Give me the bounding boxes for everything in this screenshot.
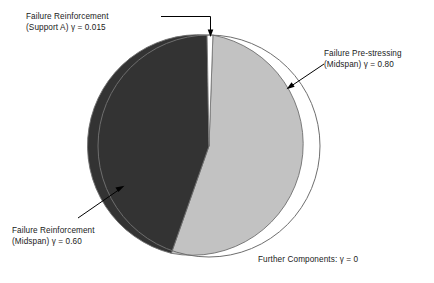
callout-label-prestressing-line1: Failure Pre-stressing bbox=[324, 48, 402, 59]
callout-label-reinforcement-midspan: Failure Reinforcement (Midspan) γ = 0.60 bbox=[12, 225, 95, 247]
callout-label-prestressing: Failure Pre-stressing (Midspan) γ = 0.80 bbox=[324, 48, 402, 70]
callout-label-reinforcement-midspan-line1: Failure Reinforcement bbox=[12, 225, 95, 236]
callout-label-support-a: Failure Reinforcement (Support A) γ = 0.… bbox=[26, 11, 109, 33]
leader-line-prestressing bbox=[287, 64, 325, 89]
leader-line-support-a bbox=[161, 17, 213, 38]
callout-label-further-components-line1: Further Components: γ = 0 bbox=[258, 254, 358, 265]
callout-label-prestressing-line2: (Midspan) γ = 0.80 bbox=[324, 59, 402, 70]
callout-label-further-components: Further Components: γ = 0 bbox=[258, 254, 358, 265]
callout-label-support-a-line2: (Support A) γ = 0.015 bbox=[26, 22, 109, 33]
callout-label-reinforcement-midspan-line2: (Midspan) γ = 0.60 bbox=[12, 236, 95, 247]
callout-label-support-a-line1: Failure Reinforcement bbox=[26, 11, 109, 22]
